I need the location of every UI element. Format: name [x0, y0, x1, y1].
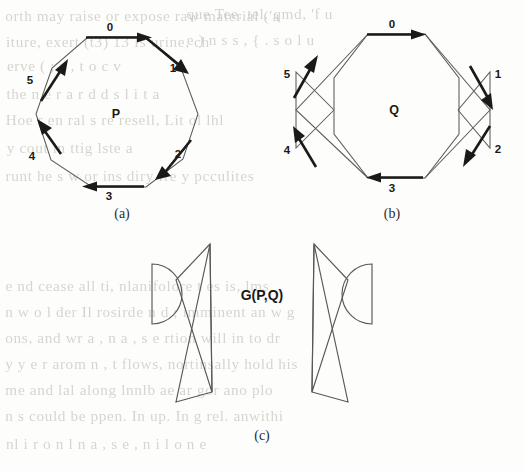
edge-label-4: 4: [284, 144, 291, 156]
left-semicircle: [152, 264, 182, 324]
edge-label-3: 3: [106, 190, 112, 202]
edge-label-1: 1: [170, 62, 177, 74]
edge-arrow-3: [82, 182, 144, 192]
caption-a: (a): [92, 206, 152, 222]
edge-label-0: 0: [389, 18, 395, 30]
edge-arrow-0: [86, 33, 152, 43]
edge-label-5: 5: [27, 74, 34, 86]
polygon-p-diagram: 0 1 2 3 4 5 P: [6, 6, 256, 236]
figure-panel-a: 0 1 2 3 4 5 P: [6, 6, 256, 236]
edge-arrow-2: [155, 140, 191, 180]
edge-label-4: 4: [29, 150, 36, 162]
edge-label-0: 0: [107, 21, 113, 33]
edge-label-3: 3: [389, 182, 395, 194]
caption-b: (b): [362, 206, 422, 222]
edge-arrow-1: [145, 37, 189, 74]
polygon-q-diagram: 0 1 2 3 4 5 Q: [268, 6, 518, 236]
edge-label-2: 2: [175, 148, 181, 160]
polygon-q-right-lobe: [425, 34, 490, 178]
right-bowtie-lower: [312, 244, 348, 402]
edge-label-2: 2: [495, 143, 501, 155]
right-semicircle: [342, 264, 372, 324]
polygon-q-right-lobe-2: [458, 72, 490, 148]
edge-label-5: 5: [284, 68, 291, 80]
edge-arrow-4: [37, 119, 61, 154]
caption-c: (c): [232, 428, 292, 444]
polygon-p-label: P: [112, 107, 120, 121]
left-bowtie-lower: [176, 244, 212, 402]
edge-label-1: 1: [495, 68, 502, 80]
edge-arrow-3: [366, 173, 423, 183]
edge-arrow-0: [367, 30, 426, 40]
figure-panel-b: 0 1 2 3 4 5 Q: [268, 6, 518, 236]
polygon-q-left-lobe: [296, 34, 368, 178]
minkowski-sum-label: G(P,Q): [241, 287, 284, 303]
polygon-q-label: Q: [389, 103, 399, 117]
edge-arrow-5: [294, 55, 318, 98]
